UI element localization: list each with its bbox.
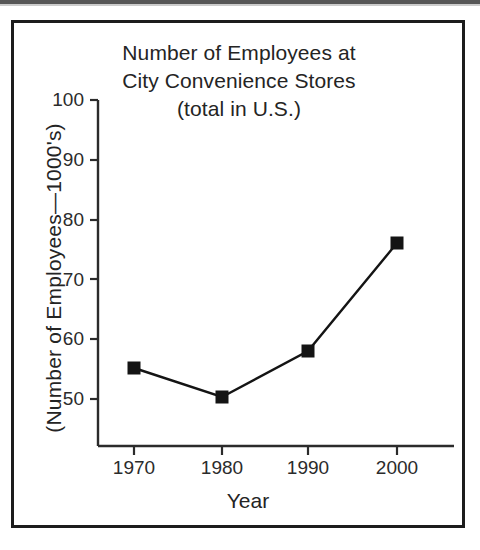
data-point-2000	[391, 237, 404, 250]
figure-inner: Number of Employees at City Convenience …	[14, 23, 462, 525]
data-point-1970	[128, 362, 141, 375]
scan-artifact-band-top-light	[0, 4, 480, 6]
data-point-1990	[302, 345, 315, 358]
data-line-employees	[134, 243, 397, 397]
plot-area	[14, 23, 468, 531]
figure-frame: Number of Employees at City Convenience …	[11, 20, 465, 528]
data-point-1980	[216, 391, 229, 404]
